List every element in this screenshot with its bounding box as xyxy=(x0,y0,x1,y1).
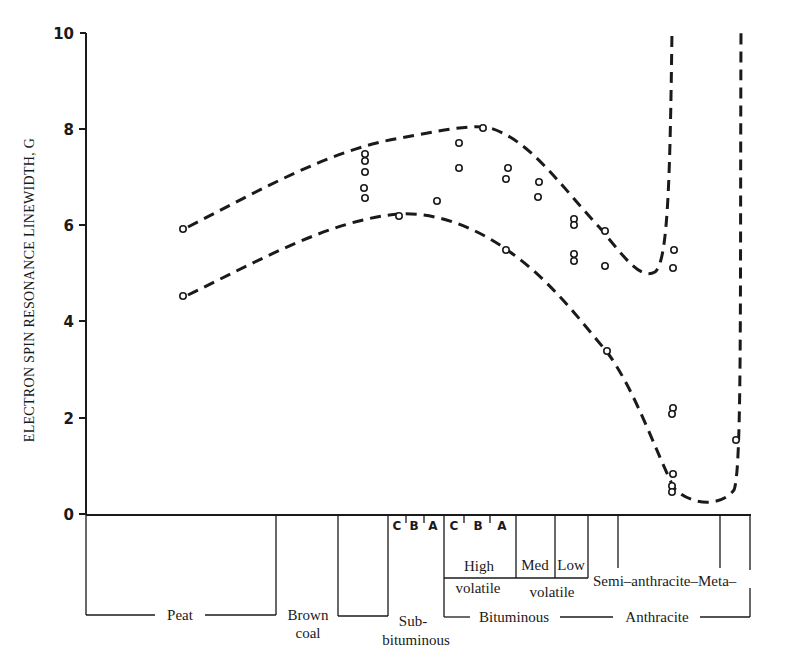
rank-label-brown: Brown xyxy=(288,607,329,623)
data-point xyxy=(480,125,486,131)
data-point xyxy=(456,140,462,146)
data-point xyxy=(602,263,608,269)
y-tick-6: 6 xyxy=(64,217,74,235)
data-point xyxy=(503,247,509,253)
sub-grade-b: B xyxy=(409,519,418,533)
bit-grade-c: C xyxy=(450,519,459,533)
data-point xyxy=(670,265,676,271)
data-point xyxy=(396,213,402,219)
data-point xyxy=(733,437,739,443)
rank-classification-panel: Peat Brown coal C B A Sub- bituminous C … xyxy=(86,515,750,648)
rank-label-peat: Peat xyxy=(167,607,194,623)
data-point xyxy=(434,198,440,204)
y-tick-4: 4 xyxy=(64,313,74,331)
data-point xyxy=(669,411,675,417)
rank-label-medlow-volatile: volatile xyxy=(530,584,575,600)
rank-label-low: Low xyxy=(557,557,585,573)
rank-label-sub: Sub- xyxy=(399,613,427,629)
rank-label-high: High xyxy=(464,558,495,574)
y-tick-0: 0 xyxy=(64,506,74,524)
y-tick-8: 8 xyxy=(64,121,74,139)
bit-grade-b: B xyxy=(473,519,482,533)
data-point xyxy=(180,226,186,232)
y-axis: 10 8 6 4 2 0 ELECTRON SPIN RESONANCE LIN… xyxy=(22,25,86,524)
data-point xyxy=(535,194,541,200)
rank-label-semi-anthracite-meta: Semi–anthracite–Meta– xyxy=(593,573,737,589)
data-point xyxy=(671,247,677,253)
rank-label-coal: coal xyxy=(296,625,321,641)
data-point xyxy=(456,165,462,171)
bit-grade-a: A xyxy=(497,519,507,533)
data-point xyxy=(503,176,509,182)
data-point xyxy=(362,151,368,157)
y-axis-label: ELECTRON SPIN RESONANCE LINEWIDTH, G xyxy=(22,138,37,442)
upper-envelope-curve xyxy=(188,30,672,274)
data-point xyxy=(669,489,675,495)
data-point xyxy=(571,251,577,257)
y-tick-10: 10 xyxy=(53,25,74,43)
data-point xyxy=(362,169,368,175)
esr-linewidth-chart: 10 8 6 4 2 0 ELECTRON SPIN RESONANCE LIN… xyxy=(0,0,788,663)
rank-label-bituminous: Bituminous xyxy=(479,609,549,625)
rank-label-med: Med xyxy=(521,557,549,573)
data-point xyxy=(361,185,367,191)
data-point xyxy=(180,293,186,299)
data-point xyxy=(571,222,577,228)
data-point xyxy=(362,158,368,164)
rank-label-bituminous-sub: bituminous xyxy=(382,632,450,648)
data-point xyxy=(670,471,676,477)
lower-envelope-curve xyxy=(188,30,741,502)
rank-label-high-volatile: volatile xyxy=(456,580,501,596)
sub-grade-c: C xyxy=(393,519,402,533)
data-point xyxy=(505,165,511,171)
data-point xyxy=(362,195,368,201)
rank-label-anthracite: Anthracite xyxy=(625,609,689,625)
data-point xyxy=(602,228,608,234)
data-point xyxy=(536,179,542,185)
y-tick-2: 2 xyxy=(64,410,74,428)
data-points xyxy=(180,125,739,495)
sub-grade-a: A xyxy=(428,519,438,533)
data-point xyxy=(604,348,610,354)
data-point xyxy=(571,258,577,264)
